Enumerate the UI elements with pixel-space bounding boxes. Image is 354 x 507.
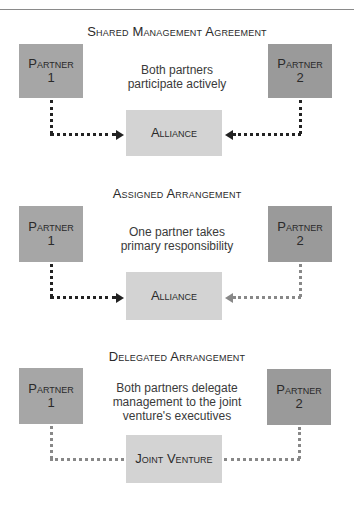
connector-left-vertical — [50, 264, 53, 297]
arrow-right-icon — [116, 293, 124, 303]
top-rule — [0, 9, 354, 10]
connector-left-horizontal — [50, 458, 124, 461]
joint-venture-box: Joint Venture — [126, 435, 222, 483]
partner-number: 2 — [296, 71, 303, 85]
section-title: Delegated Arrangement — [0, 349, 354, 364]
section-title: Assigned Arrangement — [0, 186, 354, 201]
connector-left-horizontal — [50, 133, 116, 136]
partner-label: Partner — [28, 57, 74, 71]
connector-right-vertical — [299, 100, 302, 134]
connector-left-horizontal — [50, 296, 116, 299]
partner-1-box: Partner 1 — [19, 44, 83, 98]
connector-right-vertical — [298, 427, 301, 459]
section-description: One partner takes primary responsibility — [105, 225, 249, 253]
connector-right-vertical — [299, 264, 302, 297]
connector-left-vertical — [50, 426, 53, 459]
partner-number: 1 — [47, 71, 54, 85]
section-description: Both partners participate actively — [110, 63, 244, 91]
partner-2-box: Partner 2 — [267, 369, 331, 425]
section-description: Both partners delegate management to the… — [105, 381, 249, 423]
connector-right-horizontal — [233, 296, 301, 299]
arrow-left-icon — [225, 130, 233, 140]
partner-2-box: Partner 2 — [268, 44, 332, 98]
connector-left-vertical — [50, 100, 53, 134]
connector-right-horizontal — [224, 458, 300, 461]
partner-2-box: Partner 2 — [268, 206, 332, 262]
arrow-left-icon — [225, 293, 233, 303]
connector-right-horizontal — [233, 133, 301, 136]
partner-label: Partner — [277, 57, 323, 71]
arrow-right-icon — [116, 130, 124, 140]
alliance-box: Alliance — [126, 110, 222, 156]
alliance-box: Alliance — [126, 272, 222, 320]
section-title: Shared Management Agreement — [0, 24, 354, 39]
partner-1-box: Partner 1 — [19, 206, 83, 262]
partner-1-box: Partner 1 — [19, 368, 83, 424]
